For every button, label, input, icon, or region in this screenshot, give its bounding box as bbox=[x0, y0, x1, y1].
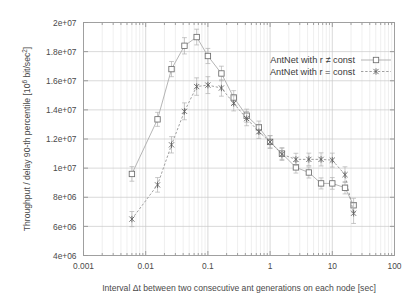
data-point-marker bbox=[205, 53, 210, 58]
y-tick-label: 1.4e+07 bbox=[46, 105, 77, 115]
legend: AntNet with r ≠ constAntNet with r = con… bbox=[270, 55, 391, 76]
legend-label-2: AntNet with r = const bbox=[270, 67, 355, 77]
y-axis-title: Throughput / delay 90-th percentile [106… bbox=[21, 47, 33, 231]
data-point-marker bbox=[342, 185, 347, 190]
data-point-marker bbox=[169, 142, 174, 148]
data-point-marker bbox=[293, 156, 298, 162]
y-tick-label: 1.2e+07 bbox=[46, 134, 77, 144]
legend-label-1: AntNet with r ≠ const bbox=[270, 55, 355, 65]
x-axis-title: Interval Δt between two consecutive ant … bbox=[102, 283, 376, 293]
data-point-marker bbox=[182, 108, 187, 114]
chart-canvas: 0.0010.010.11101004e+066e+068e+061e+071.… bbox=[0, 0, 420, 300]
data-point-marker bbox=[342, 171, 347, 177]
data-point-marker bbox=[318, 181, 323, 186]
x-tick-label: 1 bbox=[268, 261, 273, 271]
x-tick-label: 0.001 bbox=[73, 261, 94, 271]
chart-figure: 0.0010.010.11101004e+066e+068e+061e+071.… bbox=[0, 0, 420, 300]
data-point-marker bbox=[351, 210, 356, 216]
data-point-marker bbox=[129, 216, 134, 222]
data-point-marker bbox=[129, 171, 134, 176]
data-point-marker bbox=[219, 85, 224, 91]
data-point-marker bbox=[306, 170, 311, 175]
data-point-marker bbox=[194, 34, 199, 39]
data-point-marker bbox=[155, 117, 160, 122]
y-tick-label: 1e+07 bbox=[53, 163, 77, 173]
series-line bbox=[132, 85, 354, 219]
y-tick-label: 1.6e+07 bbox=[46, 76, 77, 86]
legend-marker-1 bbox=[373, 57, 378, 62]
x-tick-label: 100 bbox=[388, 261, 402, 271]
y-tick-label: 6e+06 bbox=[53, 222, 77, 232]
data-point-marker bbox=[182, 43, 187, 48]
data-point-marker bbox=[231, 100, 236, 106]
y-tick-label: 4e+06 bbox=[53, 251, 77, 261]
y-tick-label: 1.8e+07 bbox=[46, 47, 77, 57]
data-point-marker bbox=[219, 71, 224, 76]
y-tick-label: 8e+06 bbox=[53, 192, 77, 202]
data-point-marker bbox=[306, 156, 311, 162]
y-tick-label: 2e+07 bbox=[53, 18, 77, 28]
data-point-marker bbox=[155, 182, 160, 188]
x-tick-label: 0.01 bbox=[138, 261, 155, 271]
data-point-marker bbox=[169, 66, 174, 71]
data-point-marker bbox=[330, 181, 335, 186]
x-tick-label: 10 bbox=[328, 261, 338, 271]
x-tick-label: 0.1 bbox=[202, 261, 214, 271]
